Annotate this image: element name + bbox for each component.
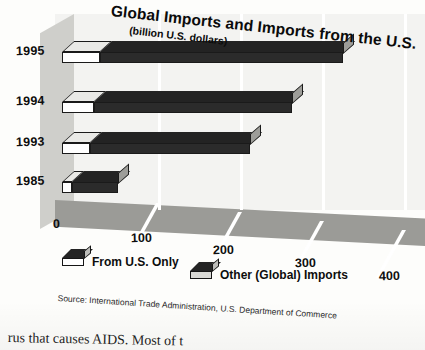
y-axis-label-1995: 1995	[16, 44, 45, 59]
y-axis-label-1985: 1985	[16, 174, 45, 189]
bar-1994-other-global	[94, 100, 292, 114]
chart-legend: From U.S. Only Other (Global) Imports	[0, 243, 425, 288]
bar-1995-from-us-only	[62, 50, 100, 64]
legend-label-from-us-only: From U.S. Only	[92, 255, 179, 269]
bar-1985-other-global	[72, 180, 118, 194]
chart-title-block: Global Imports and Imports from the U.S.…	[112, 2, 425, 48]
x-axis-label-0: 0	[53, 217, 60, 231]
legend-label-other-global-imports: Other (Global) Imports	[220, 268, 348, 282]
legend-swatch-light-icon	[62, 249, 90, 269]
chart-figure: 1995 1994 1993 1985 0 100 200 300 400 Gl…	[0, 0, 425, 350]
page-body-text-fragment: rus that causes AIDS. Most of t	[8, 330, 184, 349]
bar-1993-from-us-only	[62, 141, 90, 155]
legend-swatch-dark-icon	[190, 262, 218, 282]
y-axis-label-1994: 1994	[16, 94, 45, 109]
y-axis-label-1993: 1993	[16, 135, 45, 150]
bar-1994-from-us-only	[62, 100, 94, 114]
bar-1985-from-us-only	[62, 180, 72, 194]
bar-1993-other-global	[90, 141, 250, 155]
